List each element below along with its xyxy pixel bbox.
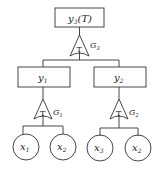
event-y2-label: y2 [113, 72, 124, 84]
gate-g2-label: G2 [129, 108, 139, 118]
basic-x2b-label: x2 [132, 142, 142, 154]
basic-x1-label: x1 [20, 141, 29, 153]
gate-g1-label: G1 [53, 108, 63, 118]
basic-x2-label: x2 [57, 141, 67, 153]
gate-g1-symbol: T [40, 109, 46, 118]
gate-g3-label: G3 [90, 41, 100, 51]
top-event-label: y3(T) [67, 13, 92, 25]
gate-g2-symbol: T [116, 109, 122, 118]
gate-g3-symbol: T [77, 45, 83, 54]
fault-tree-diagram: y3(T) T G3 y1 y2 T G1 T G2 x1 x2 x3 x2 [0, 0, 160, 174]
event-y1-label: y1 [37, 72, 47, 84]
basic-x3-label: x3 [94, 142, 104, 154]
